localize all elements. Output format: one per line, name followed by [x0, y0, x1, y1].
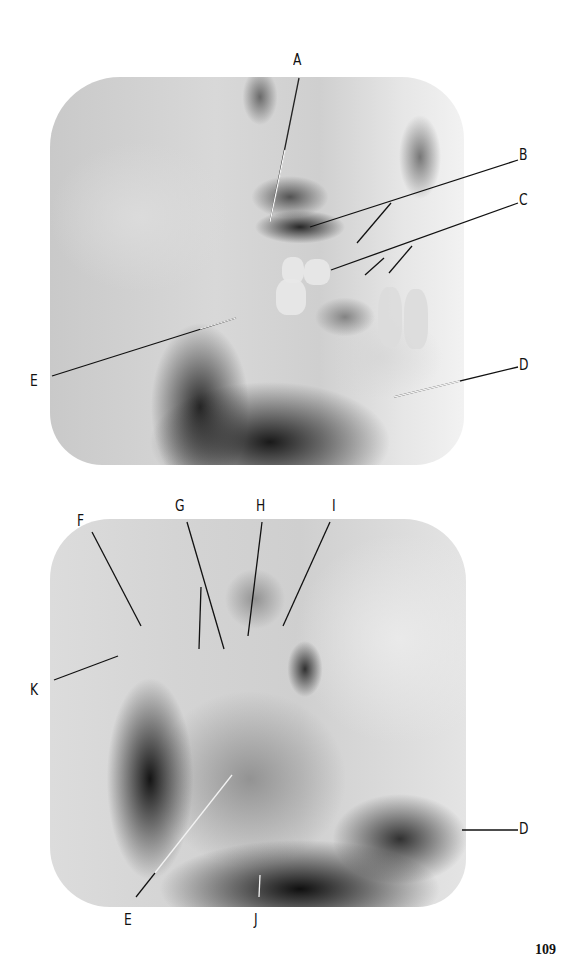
label-D-bottom: D — [519, 822, 528, 837]
label-D-top: D — [519, 358, 528, 373]
tooth-shadow — [404, 289, 428, 349]
label-E-bottom: E — [124, 913, 132, 928]
label-J: J — [254, 913, 258, 928]
xray-image-top — [50, 77, 464, 465]
label-G: G — [175, 499, 185, 514]
radiograph-top — [50, 77, 464, 465]
label-A: A — [293, 53, 301, 68]
xray-image-bottom — [50, 519, 466, 907]
radiograph-bottom — [50, 519, 466, 907]
tooth-shadow — [276, 279, 306, 315]
label-F: F — [77, 514, 84, 529]
label-H: H — [256, 499, 265, 514]
tooth-shadow — [378, 287, 402, 347]
label-C: C — [519, 193, 528, 208]
label-K: K — [30, 683, 38, 698]
label-E-top: E — [30, 374, 38, 389]
tooth-shadow — [304, 259, 330, 285]
label-I: I — [332, 499, 336, 514]
label-B: B — [519, 148, 527, 163]
page-number: 109 — [535, 942, 556, 958]
